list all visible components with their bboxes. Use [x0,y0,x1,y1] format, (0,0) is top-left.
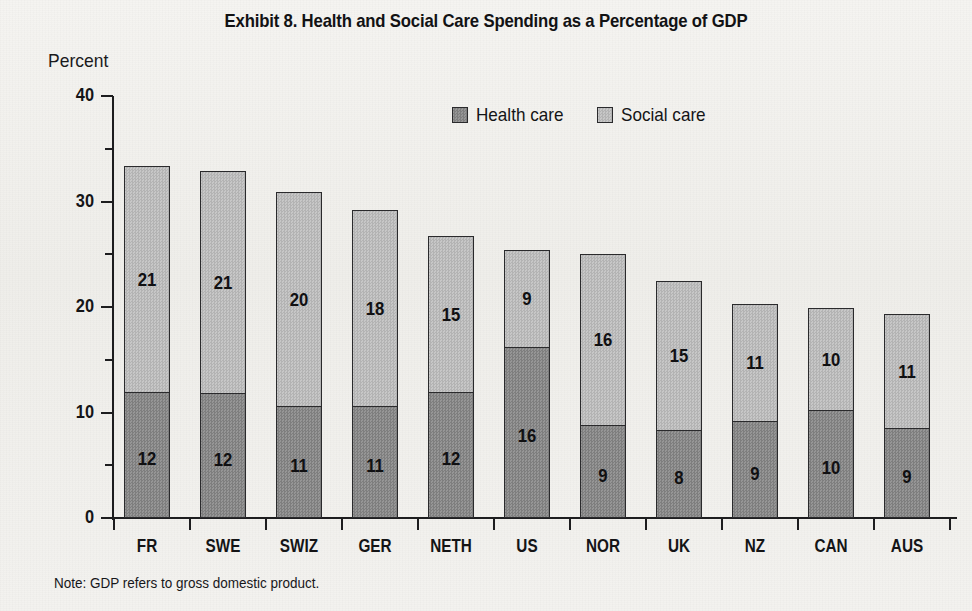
bar-value-label-social-care: 21 [128,270,167,289]
chart-note: Note: GDP refers to gross domestic produ… [54,574,319,591]
bar-segment-health-care[interactable]: 11 [352,406,398,518]
x-axis-label-swiz: SWIZ [268,536,331,557]
bar-segment-health-care[interactable]: 8 [656,430,702,518]
bar-value-label-health-care: 10 [812,458,851,477]
x-axis-label-uk: UK [648,536,711,557]
x-axis-tick [797,519,799,530]
bar-segment-health-care[interactable]: 16 [504,347,550,518]
bar-value-label-social-care: 21 [204,273,243,292]
bar-segment-social-care[interactable]: 15 [656,281,702,432]
bar-segment-social-care[interactable]: 9 [504,250,550,348]
y-axis-tick-label: 10 [46,401,94,423]
bar-us[interactable]: 916 [504,250,550,518]
bar-segment-social-care[interactable]: 18 [352,210,398,407]
bar-segment-social-care[interactable]: 11 [732,304,778,423]
bar-neth[interactable]: 1512 [428,236,474,518]
bar-value-label-health-care: 12 [204,450,243,469]
bar-segment-social-care[interactable]: 15 [428,236,474,393]
bar-segment-health-care[interactable]: 9 [884,428,930,518]
x-axis-label-fr: FR [116,536,179,557]
x-axis-tick [645,519,647,530]
chart-figure: Exhibit 8. Health and Social Care Spendi… [0,0,972,611]
x-axis-tick [265,519,267,530]
bar-segment-health-care[interactable]: 11 [276,406,322,518]
bar-value-label-health-care: 12 [128,449,167,468]
y-axis-major-tick [101,306,113,308]
bar-value-label-health-care: 9 [736,464,775,483]
bar-value-label-social-care: 16 [584,330,623,349]
x-axis-tick [113,519,115,530]
x-axis-tick [873,519,875,530]
x-axis-tick [341,519,343,530]
plot-area: 010203040 211221122011181115129161691581… [0,0,972,611]
bar-value-label-social-care: 11 [736,353,775,372]
bar-value-label-social-care: 18 [356,299,395,318]
x-axis-label-swe: SWE [192,536,255,557]
bar-uk[interactable]: 158 [656,281,702,518]
bar-segment-social-care[interactable]: 20 [276,192,322,407]
bar-value-label-social-care: 15 [660,346,699,365]
bar-value-label-health-care: 8 [660,468,699,487]
bar-segment-social-care[interactable]: 11 [884,314,930,429]
y-axis-tick-label: 0 [46,506,94,528]
x-axis-label-nz: NZ [724,536,787,557]
bar-value-label-social-care: 11 [888,362,927,381]
x-axis-label-can: CAN [800,536,863,557]
bar-segment-health-care[interactable]: 9 [580,425,626,518]
x-axis-tick [721,519,723,530]
y-axis-tick-label: 40 [46,84,94,106]
bar-segment-social-care[interactable]: 21 [200,171,246,395]
x-axis-label-aus: AUS [876,536,939,557]
bar-segment-health-care[interactable]: 12 [124,392,170,518]
bar-segment-social-care[interactable]: 16 [580,254,626,426]
y-axis-minor-tick [105,359,113,361]
bar-nor[interactable]: 169 [580,254,626,518]
bar-ger[interactable]: 1811 [352,210,398,518]
bar-value-label-social-care: 20 [280,290,319,309]
bar-value-label-health-care: 12 [432,449,471,468]
bar-value-label-health-care: 11 [356,456,395,475]
x-axis-label-ger: GER [344,536,407,557]
bar-fr[interactable]: 2112 [124,166,170,518]
x-axis-tick [493,519,495,530]
y-axis-line [112,96,114,520]
x-axis-label-neth: NETH [420,536,483,557]
y-axis-major-tick [101,201,113,203]
bar-value-label-social-care: 15 [432,305,471,324]
bar-segment-health-care[interactable]: 12 [200,393,246,518]
x-axis-label-nor: NOR [572,536,635,557]
bar-value-label-social-care: 10 [812,350,851,369]
x-axis-tick [569,519,571,530]
x-axis-tick [417,519,419,530]
bar-value-label-health-care: 11 [280,456,319,475]
y-axis-major-tick [101,95,113,97]
bar-swe[interactable]: 2112 [200,171,246,518]
y-axis-tick-label: 30 [46,190,94,212]
y-axis-minor-tick [105,464,113,466]
bar-segment-health-care[interactable]: 12 [428,392,474,518]
x-axis-tick [189,519,191,530]
bar-segment-social-care[interactable]: 10 [808,308,854,411]
bar-value-label-health-care: 9 [888,467,927,486]
bar-value-label-health-care: 16 [508,426,547,445]
bar-segment-health-care[interactable]: 10 [808,410,854,518]
bar-aus[interactable]: 119 [884,314,930,518]
y-axis-major-tick [101,412,113,414]
bar-swiz[interactable]: 2011 [276,192,322,518]
y-axis-tick-label: 20 [46,295,94,317]
bar-segment-health-care[interactable]: 9 [732,421,778,518]
bar-nz[interactable]: 119 [732,304,778,518]
y-axis-minor-tick [105,148,113,150]
bar-can[interactable]: 1010 [808,308,854,518]
bar-value-label-social-care: 9 [508,289,547,308]
x-axis-label-us: US [496,536,559,557]
y-axis-minor-tick [105,253,113,255]
bar-segment-social-care[interactable]: 21 [124,166,170,394]
y-axis-major-tick [101,517,113,519]
x-axis-tick [949,519,951,530]
bar-value-label-health-care: 9 [584,466,623,485]
